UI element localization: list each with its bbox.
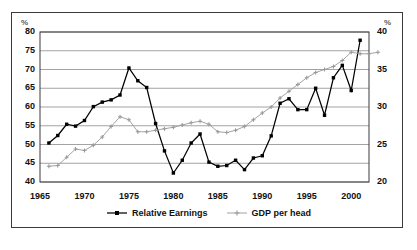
data-point-marker: [341, 64, 344, 67]
data-point-marker: [198, 119, 202, 123]
data-point-marker: [118, 93, 121, 96]
data-point-marker: [367, 52, 371, 56]
data-point-marker: [83, 119, 86, 122]
data-point-marker: [376, 50, 380, 54]
data-point-marker: [314, 71, 318, 75]
data-point-marker: [216, 165, 219, 168]
data-point-marker: [305, 108, 308, 111]
data-point-marker: [278, 102, 281, 105]
data-point-marker: [180, 123, 184, 127]
data-point-marker: [323, 68, 327, 72]
data-point-marker: [234, 128, 238, 132]
data-point-marker: [350, 89, 353, 92]
data-point-marker: [314, 87, 317, 90]
data-point-marker: [65, 123, 68, 126]
data-point-marker: [101, 100, 104, 103]
data-point-marker: [47, 141, 50, 144]
chart-figure: % % 807570656055504540 4035302520 196519…: [0, 0, 417, 250]
data-point-marker: [287, 97, 290, 100]
data-point-marker: [225, 164, 228, 167]
legend-square-marker-icon: [106, 208, 128, 218]
data-point-marker: [234, 159, 237, 162]
data-point-marker: [198, 132, 201, 135]
legend-item-gdp-per-head[interactable]: GDP per head: [226, 208, 311, 218]
data-point-marker: [189, 141, 192, 144]
data-point-marker: [92, 105, 95, 108]
data-point-marker: [358, 39, 361, 42]
data-point-marker: [189, 121, 193, 125]
data-point-marker: [56, 134, 59, 137]
data-point-marker: [127, 66, 130, 69]
data-point-marker: [261, 154, 264, 157]
data-point-marker: [145, 130, 149, 134]
legend-item-relative-earnings[interactable]: Relative Earnings: [106, 208, 208, 218]
data-point-marker: [162, 127, 166, 131]
data-point-marker: [109, 98, 112, 101]
data-point-marker: [163, 149, 166, 152]
data-point-marker: [145, 86, 148, 89]
data-point-marker: [243, 168, 246, 171]
data-point-marker: [269, 134, 272, 137]
data-point-marker: [332, 76, 335, 79]
chart-legend: Relative EarningsGDP per head: [0, 208, 417, 218]
data-point-marker: [181, 159, 184, 162]
data-point-marker: [47, 164, 51, 168]
data-point-marker: [296, 108, 299, 111]
data-point-marker: [252, 156, 255, 159]
data-point-marker: [172, 171, 175, 174]
legend-label: Relative Earnings: [132, 208, 208, 218]
data-point-marker: [154, 122, 157, 125]
legend-label: GDP per head: [252, 208, 311, 218]
data-point-marker: [82, 149, 86, 153]
data-point-marker: [358, 52, 362, 56]
legend-plus-marker-icon: [226, 208, 248, 218]
series-gdp-per-head: [47, 50, 380, 168]
data-point-marker: [225, 131, 229, 135]
data-point-marker: [74, 124, 77, 127]
data-point-marker: [207, 160, 210, 163]
data-point-marker: [323, 114, 326, 117]
data-point-marker: [136, 79, 139, 82]
gridlines: [40, 32, 369, 182]
